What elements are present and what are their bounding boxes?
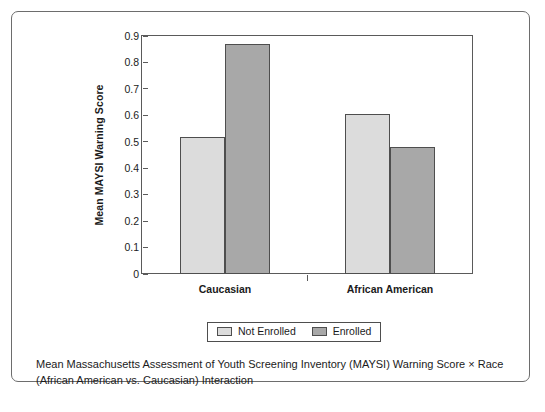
bars-layer [142,36,472,274]
y-axis-tick-label: 0.6 [124,110,139,121]
y-axis-tick-label: 0.1 [124,242,139,253]
caption-line-1: Mean Massachusetts Assessment of Youth S… [36,357,506,373]
bar-caucasian-not-enrolled [180,137,225,275]
x-axis-label-caucasian: Caucasian [145,283,305,295]
y-axis-tick-label: 0.2 [124,215,139,226]
bar-african-american-not-enrolled [345,114,390,274]
x-axis-label-african-american: African American [310,283,470,295]
legend-item-enrolled: Enrolled [312,326,372,337]
legend-swatch-icon [312,327,327,336]
chart-plot-area: Mean MAYSI Warning Score 0.90.80.70.60.5… [130,35,480,285]
y-axis-tick-label: 0.3 [124,189,139,200]
legend-item-label: Not Enrolled [238,326,296,337]
caption-line-2: (African American vs. Caucasian) Interac… [36,373,506,389]
figure-border-box: Mean MAYSI Warning Score 0.90.80.70.60.5… [11,11,530,382]
y-axis-title-text: Mean MAYSI Warning Score [93,84,105,225]
y-axis-title: Mean MAYSI Warning Score [92,35,106,274]
bar-african-american-enrolled [390,147,435,274]
x-axis-separator-tick [307,275,308,281]
bar-caucasian-enrolled [225,44,270,274]
y-axis-tick-label: 0.5 [124,136,139,147]
y-axis-tick-label: 0.4 [124,162,139,173]
y-axis-tick-label: 0 [133,268,139,279]
legend-swatch-icon [217,327,232,336]
legend-item-not-enrolled: Not Enrolled [217,326,296,337]
y-axis-tick-label: 0.7 [124,83,139,94]
chart-legend: Not EnrolledEnrolled [207,322,381,342]
legend-item-label: Enrolled [333,326,372,337]
y-axis-tick-label: 0.8 [124,57,139,68]
figure-caption: Mean Massachusetts Assessment of Youth S… [36,357,506,388]
y-axis-tick-label: 0.9 [124,30,139,41]
